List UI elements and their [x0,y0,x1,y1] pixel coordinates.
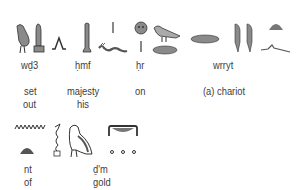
glyph-quail-wrryt [152,22,182,56]
gloss-set: set [24,85,36,97]
translit-nt: nt [24,163,32,175]
glyph-cord-dm [52,123,62,157]
glyph-legs [51,36,67,50]
glyph-mouth-wrryt [190,34,220,44]
glyph-collar-gold [107,124,139,158]
glyph-water-nt [14,123,46,131]
translit-wd3: wḏ3 [21,59,38,71]
glyph-face-hr [134,21,148,37]
glyph-branch-wrryt [260,42,292,54]
translit-wrryt: wrryt [213,59,233,71]
gloss-gold: gold [93,176,111,188]
glyph-falcon-dm [64,122,94,158]
gloss-majesty: majesty [67,85,99,97]
gloss-out: out [23,98,36,110]
glyph-club-hmf [82,22,92,54]
glyph-stroke-hr [139,41,143,53]
glyph-viper-hmf [98,42,128,54]
glyph-reeds-wrryt [233,22,255,54]
glyph-cobra-wd3 [33,22,45,54]
gloss-of: of [24,176,32,188]
translit-hmf: ḥmf [75,59,91,71]
translit-hr: ḥr [136,59,144,71]
glyph-stroke-hmf [111,22,115,34]
glyph-loaf-nt [19,145,35,155]
translit-dm: ḏ'm [93,163,108,175]
glyph-loaf-wrryt [268,22,284,32]
gloss-his: his [77,98,89,110]
gloss-on: on [135,85,145,97]
gloss-chariot: (a) chariot [203,85,245,97]
